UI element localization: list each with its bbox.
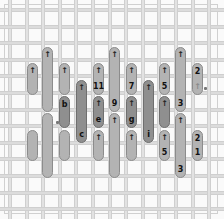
arrow-up-icon: ↑ <box>29 67 36 75</box>
piece[interactable]: ↑ <box>27 63 38 95</box>
piece-label: 3 <box>178 99 184 108</box>
piece[interactable]: ↑ <box>59 63 70 95</box>
piece[interactable]: ↑ 5 <box>159 130 170 161</box>
piece-label: 5 <box>162 148 168 157</box>
piece[interactable]: ↑ i <box>143 80 154 143</box>
piece[interactable]: ↑ 3 <box>175 113 186 178</box>
arrow-up-icon: ↑ <box>78 84 85 92</box>
arrow-up-icon: ↑ <box>95 134 102 142</box>
arrow-up-icon: ↑ <box>128 67 135 75</box>
piece[interactable]: ↑ <box>109 113 120 178</box>
grid-line-horizontal <box>0 207 224 211</box>
piece[interactable]: 2 ↑ <box>192 63 203 95</box>
arrow-up-icon: ↑ <box>128 134 135 142</box>
arrow-up-icon: ↑ <box>177 117 184 125</box>
arrow-up-icon: ↑ <box>44 51 51 59</box>
game-board: ↑ ↑ ↑ b ↑ c ↑ 11 ↑ e ↑ ↑ 9 ↑ ↑ 7 ↑ <box>0 0 224 219</box>
arrow-up-icon: ↑ <box>161 134 168 142</box>
marker-dot <box>56 121 59 124</box>
piece-label: 1 <box>195 148 201 157</box>
piece-label: 3 <box>178 165 184 174</box>
piece-label: 2 <box>195 67 201 76</box>
piece[interactable] <box>59 130 70 161</box>
piece[interactable] <box>27 130 38 161</box>
arrow-up-icon: ↑ <box>194 83 201 91</box>
arrow-up-icon: ↑ <box>95 100 102 108</box>
piece[interactable]: b <box>59 96 70 128</box>
arrow-up-icon: ↑ <box>161 100 168 108</box>
piece[interactable]: 2 1 <box>192 130 203 161</box>
piece-label: 9 <box>112 99 118 108</box>
piece-label: 2 <box>195 134 201 143</box>
piece[interactable]: ↑ e <box>93 96 104 128</box>
arrow-up-icon: ↑ <box>161 67 168 75</box>
piece[interactable]: ↑ <box>159 96 170 128</box>
piece-label: i <box>147 130 150 139</box>
arrow-up-icon: ↑ <box>128 100 135 108</box>
piece[interactable]: ↑ 3 <box>175 47 186 112</box>
arrow-up-icon: ↑ <box>111 117 118 125</box>
arrow-up-icon: ↑ <box>61 67 68 75</box>
piece[interactable]: ↑ 9 <box>109 47 120 112</box>
piece-label: c <box>79 130 84 139</box>
piece-label: b <box>62 100 68 109</box>
grid-line-vertical <box>191 0 195 219</box>
piece[interactable] <box>42 113 53 178</box>
grid-line-vertical <box>207 0 211 219</box>
piece-label: 7 <box>129 82 135 91</box>
arrow-up-icon: ↑ <box>111 51 118 59</box>
arrow-up-icon: ↑ <box>177 51 184 59</box>
piece-label: 11 <box>93 82 104 91</box>
piece-label: e <box>96 115 101 124</box>
piece-label: g <box>129 115 135 124</box>
piece[interactable]: ↑ <box>126 130 137 161</box>
piece-label: 5 <box>162 82 168 91</box>
piece[interactable]: ↑ 7 <box>126 63 137 95</box>
piece[interactable]: ↑ 5 <box>159 63 170 95</box>
piece[interactable]: ↑ c <box>76 80 87 143</box>
marker-dot <box>204 87 207 90</box>
piece[interactable]: ↑ <box>42 47 53 112</box>
arrow-up-icon: ↑ <box>95 67 102 75</box>
piece[interactable]: ↑ <box>93 130 104 161</box>
piece[interactable]: ↑ g <box>126 96 137 128</box>
piece[interactable]: ↑ 11 <box>93 63 104 95</box>
arrow-up-icon: ↑ <box>145 84 152 92</box>
